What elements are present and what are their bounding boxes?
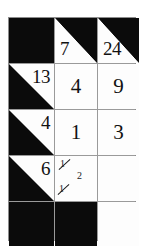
grid-cell-r2c1-clue[interactable]: 13	[9, 64, 54, 109]
answer-digit: 3	[98, 110, 139, 155]
kakuro-grid: 7 24 13 4 9 4 1 3 6	[8, 17, 136, 241]
kakuro-puzzle: 7 24 13 4 9 4 1 3 6	[0, 0, 144, 252]
answer-digit: 9	[98, 64, 139, 109]
answer-digit: 4	[55, 64, 97, 109]
grid-cell-r5c3-empty[interactable]	[98, 202, 139, 246]
grid-cell-r3c1-clue[interactable]: 4	[9, 110, 54, 155]
clue-number-down: 24	[103, 39, 121, 58]
clue-number-across: 13	[32, 67, 50, 86]
pencil-mark-struck: 1	[60, 159, 65, 169]
pencil-mark-text: 2	[77, 170, 82, 181]
grid-cell-r1c3-clue[interactable]: 24	[98, 18, 139, 63]
grid-cell-r3c3-answer[interactable]: 3	[98, 110, 139, 155]
grid-cell-r1c2-clue[interactable]: 7	[55, 18, 97, 63]
grid-cell-r4c2-pencil[interactable]: 1 2 1	[55, 156, 97, 201]
pencil-mark-struck: 1	[59, 184, 64, 194]
clue-number-down: 7	[60, 39, 69, 58]
clue-number-across: 6	[41, 159, 50, 178]
grid-cell-r5c1	[9, 202, 54, 246]
grid-cell-r5c2	[55, 202, 97, 246]
pencil-mark-layer: 1 2 1	[55, 156, 97, 201]
grid-cell-r3c2-answer[interactable]: 1	[55, 110, 97, 155]
grid-cell-r4c1-clue[interactable]: 6	[9, 156, 54, 201]
grid-cell-r4c3-empty[interactable]	[98, 156, 139, 201]
clue-number-across: 4	[41, 113, 50, 132]
answer-digit: 1	[55, 110, 97, 155]
grid-cell-r1c1	[9, 18, 54, 63]
grid-cell-r2c2-answer[interactable]: 4	[55, 64, 97, 109]
grid-cell-r2c3-answer[interactable]: 9	[98, 64, 139, 109]
pencil-mark: 2	[77, 171, 82, 181]
